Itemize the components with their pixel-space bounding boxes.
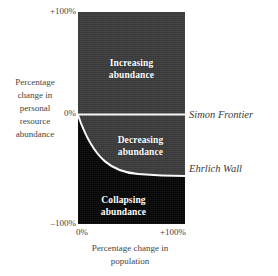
annotation-simon-frontier: Simon Frontier (189, 109, 253, 120)
plot-area: Increasing abundance Decreasing abundanc… (78, 12, 185, 224)
figure-container: Increasing abundance Decreasing abundanc… (0, 0, 278, 276)
x-axis-tick-left: 0% (76, 227, 88, 237)
annotation-ehrlich-wall: Ehrlich Wall (189, 163, 242, 174)
y-axis-tick-bottom: –100% (51, 218, 77, 228)
y-axis-title: Percentage change in personal resource a… (2, 76, 68, 141)
x-axis-tick-right: +100% (160, 227, 186, 237)
region-label-collapsing-abundance: Collapsing abundance (78, 195, 169, 218)
plot-regions-svg (78, 12, 185, 224)
region-label-increasing-abundance: Increasing abundance (78, 58, 185, 81)
x-axis-title: Percentage change in population (60, 242, 200, 268)
region-label-decreasing-abundance: Decreasing abundance (96, 135, 185, 158)
y-axis-tick-top: +100% (50, 6, 76, 16)
